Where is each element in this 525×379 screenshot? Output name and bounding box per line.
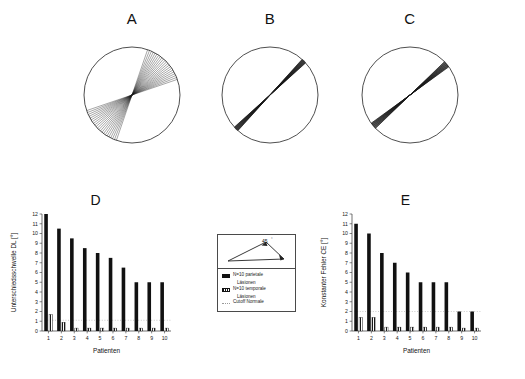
legend-angle-icon: 45 ° [218,235,295,269]
legend-item-temporal: N=10 temporale [222,286,295,294]
bar-chart-d: 012345678910111212345678910PatientenUnte… [8,206,183,371]
svg-text:3: 3 [35,299,38,305]
svg-text:0: 0 [345,328,348,334]
svg-text:7: 7 [35,260,38,266]
panel-letter-b: B [190,10,350,27]
svg-text:10: 10 [162,335,168,341]
svg-text:9: 9 [150,335,153,341]
svg-text:10: 10 [472,335,478,341]
bar-panel-e: E 012345678910111212345678910PatientenKo… [318,188,493,379]
svg-text:9: 9 [460,335,463,341]
legend-angle-unit: ° [271,236,273,241]
svg-text:6: 6 [112,335,115,341]
svg-text:6: 6 [345,269,348,275]
figure-root: A B C D 012345678910111212345678910Patie… [0,0,525,379]
svg-text:3: 3 [383,335,386,341]
svg-text:11: 11 [343,221,348,227]
svg-text:5: 5 [345,279,348,285]
bar-chart-row: D 012345678910111212345678910PatientenUn… [0,188,525,379]
svg-text:2: 2 [60,335,63,341]
panel-letter-c: C [330,10,490,27]
svg-text:5: 5 [409,335,412,341]
polar-plot-b [205,30,335,160]
polar-panel-a: A [52,0,212,188]
svg-text:7: 7 [124,335,127,341]
svg-text:8: 8 [345,250,348,256]
polar-plot-a [67,30,197,160]
svg-text:6: 6 [35,269,38,275]
bar-panel-d: D 012345678910111212345678910PatientenUn… [8,188,183,379]
svg-text:8: 8 [35,250,38,256]
svg-text:1: 1 [35,318,38,324]
svg-text:4: 4 [345,289,348,295]
svg-text:12: 12 [342,211,348,217]
svg-text:2: 2 [35,308,38,314]
svg-text:11: 11 [33,221,38,227]
polar-plot-c [345,30,475,160]
svg-text:5: 5 [35,279,38,285]
svg-text:3: 3 [345,299,348,305]
svg-text:Konstanter Fehler CE [°]: Konstanter Fehler CE [°] [320,238,328,308]
svg-text:12: 12 [32,211,38,217]
svg-text:Patienten: Patienten [403,347,430,354]
svg-text:4: 4 [86,335,89,341]
svg-text:7: 7 [434,335,437,341]
svg-text:9: 9 [35,240,38,246]
svg-text:10: 10 [342,230,348,236]
svg-text:Unterschiedsschwelle DL [°]: Unterschiedsschwelle DL [°] [10,233,18,313]
legend-swatch-dotted-icon [222,303,230,304]
polar-panel-row: A B C [0,0,525,188]
svg-text:2: 2 [370,335,373,341]
svg-text:6: 6 [422,335,425,341]
svg-text:4: 4 [35,289,38,295]
svg-text:4: 4 [396,335,399,341]
legend-item-parietal: N=10 parietale [222,272,295,280]
svg-text:2: 2 [345,308,348,314]
panel-letter-a: A [52,10,212,27]
legend-label-cutoff: Cutoff Normale [233,299,264,305]
angle-diagram-icon [218,235,295,268]
svg-text:9: 9 [345,240,348,246]
legend-swatch-hatched-icon [222,288,230,292]
bar-chart-e: 012345678910111212345678910PatientenKons… [318,206,493,371]
svg-text:7: 7 [345,260,348,266]
svg-text:5: 5 [99,335,102,341]
legend-swatch-solid-icon [222,274,230,278]
legend-item-cutoff: Cutoff Normale [222,299,295,307]
legend-label-parietal: N=10 parietale [233,272,263,278]
polar-panel-b: B [190,0,350,188]
svg-text:Patienten: Patienten [93,347,120,354]
polar-panel-c: C [330,0,490,188]
svg-text:8: 8 [447,335,450,341]
svg-text:8: 8 [137,335,140,341]
legend-label-temporal: N=10 temporale [233,286,266,292]
svg-text:3: 3 [73,335,76,341]
svg-text:1: 1 [357,335,360,341]
chart-legend: 45 ° N=10 parietale Läsionen N=10 tempor… [217,234,296,312]
svg-text:10: 10 [32,230,38,236]
svg-text:1: 1 [345,318,348,324]
legend-entry-list: N=10 parietale Läsionen N=10 temporale L… [218,269,295,307]
legend-angle-value: 45 [262,238,268,244]
svg-text:1: 1 [47,335,50,341]
svg-text:0: 0 [35,328,38,334]
